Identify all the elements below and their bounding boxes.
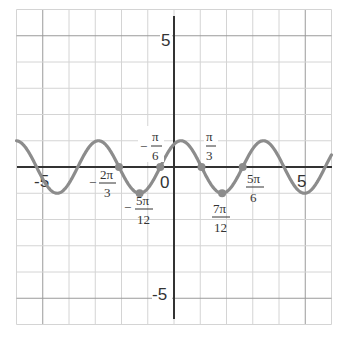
marked-point bbox=[197, 163, 205, 171]
svg-text:−: − bbox=[89, 175, 96, 190]
marked-point bbox=[156, 163, 164, 171]
svg-text:π: π bbox=[152, 129, 159, 144]
svg-text:6: 6 bbox=[152, 148, 159, 163]
svg-text:3: 3 bbox=[104, 185, 111, 200]
svg-text:12: 12 bbox=[137, 212, 150, 227]
svg-text:7π: 7π bbox=[213, 201, 227, 216]
svg-text:−: − bbox=[140, 139, 147, 154]
x-tick-5: 5 bbox=[297, 172, 306, 191]
svg-text:3: 3 bbox=[206, 148, 213, 163]
x-tick-0: 0 bbox=[160, 173, 169, 192]
label-pi-3: π 3 bbox=[204, 129, 218, 163]
svg-text:12: 12 bbox=[214, 220, 227, 235]
label-5pi-6: 5π 6 bbox=[246, 171, 264, 205]
label-neg-2pi-3: − 2π 3 bbox=[89, 167, 116, 200]
label-neg-pi-6: − π 6 bbox=[138, 126, 164, 163]
marked-point bbox=[115, 163, 123, 171]
label-7pi-12: 7π 12 bbox=[212, 201, 230, 235]
marked-point bbox=[218, 189, 226, 197]
svg-text:π: π bbox=[206, 129, 213, 144]
y-tick-5: 5 bbox=[161, 31, 170, 50]
marked-point bbox=[239, 163, 247, 171]
svg-text:6: 6 bbox=[250, 190, 257, 205]
svg-text:5π: 5π bbox=[136, 193, 150, 208]
label-neg-5pi-12: − 5π 12 bbox=[124, 193, 153, 227]
function-graph: 5 -5 -5 0 5 − 2π 3 − 5π 12 − π 6 π 3 7π … bbox=[0, 0, 348, 339]
y-tick-neg5: -5 bbox=[152, 285, 167, 304]
svg-text:−: − bbox=[124, 200, 131, 215]
svg-text:5π: 5π bbox=[247, 171, 261, 186]
svg-text:2π: 2π bbox=[100, 167, 114, 182]
